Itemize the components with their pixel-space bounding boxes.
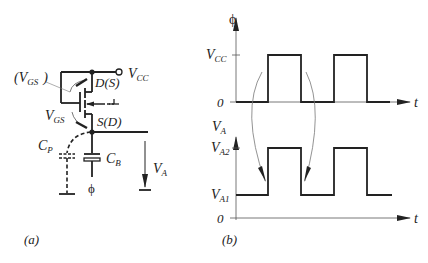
phi-zero-tick-label: 0 [217, 95, 224, 110]
va-label: VA [153, 161, 168, 178]
source-label: S(D) [97, 114, 122, 129]
va-zero-tick-label: 0 [217, 211, 224, 226]
vcc-label: VCC [128, 66, 150, 83]
vgs-paren-label: (VGS) [14, 70, 48, 87]
va1-tick-label: VA1 [211, 187, 230, 204]
circuit-panel-a: (VGS) VGS D(S) S(D) VCC CP CB ϕ VA (a) [14, 66, 168, 247]
va-t-axis-label: t [414, 211, 419, 226]
caption-a: (a) [24, 232, 39, 247]
vgs-label: VGS [45, 108, 65, 125]
vgs-leader-line [46, 82, 70, 92]
rise-coupling-curve [252, 72, 265, 181]
va-axis-label: VA [212, 119, 227, 136]
capacitor-cb [84, 132, 100, 177]
fall-coupling-arrow-icon [304, 166, 311, 182]
phi-plot: ϕ VCC 0 t [206, 12, 419, 110]
waveform-panel-b: ϕ VCC 0 t VA VA2 VA1 0 t (b) [206, 12, 419, 247]
drain-label: D(S) [94, 75, 120, 90]
phi-t-axis-label: t [414, 95, 419, 110]
vgs-arrow-icon [76, 122, 87, 128]
cb-label: CB [106, 151, 121, 168]
rise-coupling-arrow-icon [258, 166, 266, 182]
vcc-tick-label: VCC [206, 47, 228, 64]
phi-axis-label: ϕ [229, 12, 236, 27]
va-square-wave [236, 148, 392, 195]
phi-label: ϕ [88, 181, 95, 196]
va-plot: VA VA2 VA1 0 t [211, 119, 419, 226]
caption-b: (b) [222, 232, 237, 247]
va2-tick-label: VA2 [211, 140, 230, 157]
fall-coupling-curve [305, 72, 315, 181]
cp-label: CP [38, 138, 53, 155]
figure: (VGS) VGS D(S) S(D) VCC CP CB ϕ VA (a) ϕ… [0, 0, 428, 263]
capacitor-cp-parasitic [59, 132, 91, 194]
